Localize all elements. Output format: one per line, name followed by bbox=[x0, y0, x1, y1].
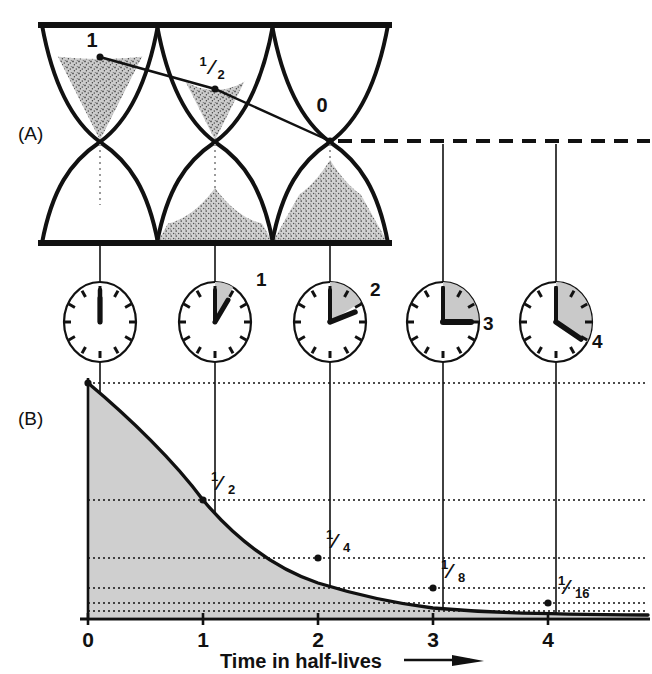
decay-point-4-denominator: 16 bbox=[575, 586, 589, 601]
hourglass-2-value-label: 0 bbox=[316, 94, 327, 116]
x-tick-label-0: 0 bbox=[82, 628, 94, 651]
decay-point-4 bbox=[544, 599, 551, 606]
clock-2-label: 2 bbox=[370, 279, 381, 300]
x-axis-title: Time in half-lives bbox=[220, 650, 382, 672]
x-tick-label-2: 2 bbox=[312, 628, 324, 651]
clock-3-label: 3 bbox=[483, 313, 494, 334]
decay-figure: (A) 1 bbox=[0, 0, 652, 674]
clock-1-label: 1 bbox=[256, 269, 267, 290]
decay-point-1 bbox=[199, 496, 206, 503]
decay-point-3-denominator: 8 bbox=[458, 570, 465, 585]
hourglass-1-value-numerator: 1 bbox=[199, 54, 206, 69]
decay-point-2-denominator: 4 bbox=[343, 540, 351, 555]
panel-a-label: (A) bbox=[18, 123, 43, 144]
clock-0 bbox=[64, 282, 136, 362]
hourglass-0-value-label: 1 bbox=[86, 29, 97, 51]
x-tick-label-1: 1 bbox=[197, 628, 209, 651]
panel-b-label: (B) bbox=[18, 408, 43, 429]
x-tick-label-4: 4 bbox=[542, 628, 554, 651]
decay-point-3 bbox=[429, 584, 436, 591]
decay-point-1-denominator: 2 bbox=[228, 482, 235, 497]
x-tick-label-3: 3 bbox=[427, 628, 439, 651]
decay-point-2 bbox=[314, 554, 321, 561]
clock-4-label: 4 bbox=[592, 331, 603, 352]
hourglass-1-value-denominator: 2 bbox=[217, 67, 224, 82]
